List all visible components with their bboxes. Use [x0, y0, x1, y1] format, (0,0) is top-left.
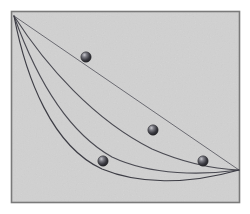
ball-on-deep-arc	[98, 156, 108, 166]
panel-texture	[11, 11, 240, 203]
panel-group	[11, 11, 240, 203]
brachistochrone-figure	[0, 0, 250, 214]
figure-canvas	[0, 0, 250, 214]
ball-on-cycloid	[198, 156, 208, 166]
ball-on-straight-chord	[81, 52, 91, 62]
ball-on-shallow-arc	[148, 125, 158, 135]
